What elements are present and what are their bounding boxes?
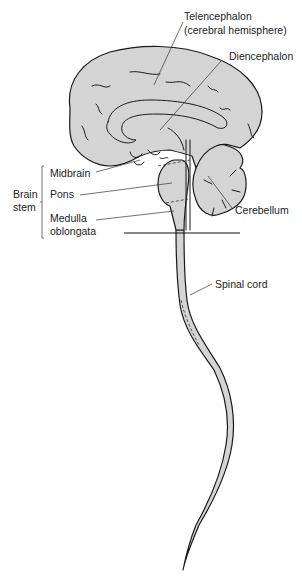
label-telencephalon: Telencephalon [184,10,252,23]
label-spinal-cord: Spinal cord [215,278,268,291]
brain-stem-bracket [40,166,44,238]
label-telencephalon-sub: (cerebral hemisphere) [184,24,287,37]
label-pons: Pons [50,188,74,201]
label-cerebellum: Cerebellum [235,204,289,217]
label-brain-stem-sub: stem [13,201,36,214]
label-diencephalon: Diencephalon [229,50,293,63]
leader-medulla [96,211,174,220]
leader-spinal-cord [190,284,212,295]
label-medulla-sub: oblongata [50,225,96,238]
label-medulla: Medulla [50,212,87,225]
label-brain-stem: Brain [13,188,38,201]
label-midbrain: Midbrain [50,167,90,180]
brainstem-shape [158,160,189,230]
